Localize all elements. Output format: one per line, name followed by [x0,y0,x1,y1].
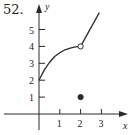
y-tick-label: 2 [29,75,34,86]
y-axis-label: y [44,1,50,12]
series-line [81,13,100,47]
y-tick-label: 5 [29,25,34,36]
x-tick-label: 2 [78,118,83,129]
y-axis-arrow-icon [36,4,42,13]
filled-point-marker [78,95,83,100]
y-tick-label: 3 [29,58,34,69]
x-axis-label: x [122,120,128,131]
graph-figure: 52. xy12312345 [0,0,131,135]
plot-area: xy12312345 [0,0,131,135]
y-tick-label: 1 [29,92,34,103]
x-axis-arrow-icon [119,111,128,117]
open-point-marker [78,44,83,49]
x-tick-label: 3 [98,118,103,129]
series-curve [39,46,81,80]
y-tick-label: 4 [29,41,34,52]
x-tick-label: 1 [57,118,62,129]
